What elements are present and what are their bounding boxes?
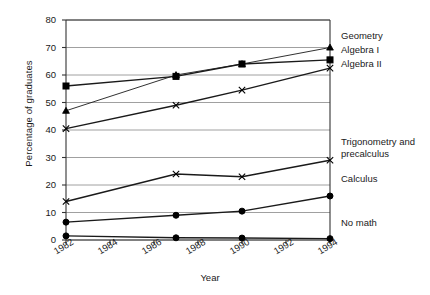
y-tick-label: 20: [28, 180, 56, 190]
y-tick-label: 0: [28, 235, 56, 245]
y-tick-label: 40: [28, 125, 56, 135]
legend-label-algebra-i: Algebra I: [341, 44, 379, 56]
y-tick-label: 50: [28, 98, 56, 108]
data-point-marker: [173, 73, 179, 79]
y-tick-label: 30: [28, 153, 56, 163]
legend-label-no-math: No math: [341, 217, 377, 229]
series-geometry: [63, 44, 334, 113]
y-tick-label: 60: [28, 70, 56, 80]
data-point-marker: [239, 208, 245, 214]
data-point-marker: [327, 57, 333, 63]
series-line: [66, 160, 330, 201]
x-axis-label: Year: [150, 272, 270, 283]
legend-label-calculus: Calculus: [341, 173, 377, 185]
series-line: [66, 60, 330, 86]
series-calculus: [63, 193, 333, 225]
y-axis-label: Percentage of graduates: [23, 34, 34, 194]
legend-label-algebra-ii: Algebra II: [341, 58, 382, 70]
chart-root: Percentage of graduates Year 01020304050…: [0, 0, 430, 295]
data-point-marker: [239, 61, 245, 67]
series-line: [66, 48, 330, 111]
series-line: [66, 196, 330, 222]
y-tick-label: 70: [28, 43, 56, 53]
series-trigonometry-and-precalculus: [63, 157, 333, 205]
y-tick-label: 10: [28, 208, 56, 218]
data-point-marker: [173, 235, 179, 241]
series-algebra-i: [63, 57, 333, 89]
data-point-marker: [327, 193, 333, 199]
y-tick-label: 80: [28, 15, 56, 25]
legend-label-geometry: Geometry: [341, 30, 383, 42]
data-point-marker: [63, 83, 69, 89]
data-point-marker: [63, 219, 69, 225]
series-line: [66, 68, 330, 129]
data-point-marker: [173, 212, 179, 218]
legend-label-trigonometry-and-precalculus: Trigonometry and precalculus: [341, 136, 427, 159]
